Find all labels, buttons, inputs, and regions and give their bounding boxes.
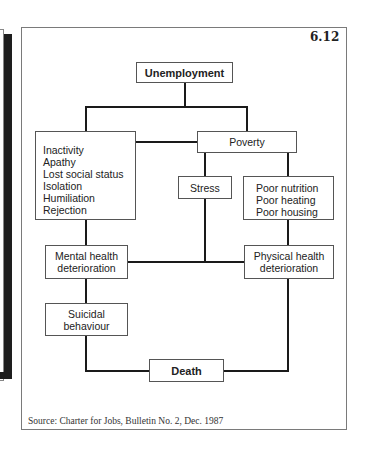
connector-mental-suicidal <box>85 279 87 303</box>
connector-to-poverty <box>246 106 248 131</box>
connector-social-mental <box>85 220 87 245</box>
connector-top-bar <box>85 106 248 108</box>
connector-social-poverty <box>136 141 197 143</box>
connector-suicidal-death <box>85 370 149 372</box>
connector-material-physical <box>287 220 289 245</box>
node-suicidal-line2: behaviour <box>63 320 109 332</box>
connector-physical-down <box>287 279 289 372</box>
connector-suicidal-down <box>85 336 87 372</box>
node-physical-health-line1: Physical health <box>254 250 325 262</box>
connector-poverty-stress <box>204 153 206 176</box>
connector-stress-down <box>204 199 206 262</box>
connector-poverty-material <box>287 153 289 176</box>
social-effect-item: Rejection <box>43 204 135 216</box>
node-death-label: Death <box>171 365 202 377</box>
social-effect-item: Humiliation <box>43 192 135 204</box>
node-mental-health-line2: deterioration <box>57 262 115 274</box>
node-unemployment-label: Unemployment <box>145 67 224 79</box>
material-effect-item: Poor heating <box>256 194 333 206</box>
node-poverty: Poverty <box>197 131 297 153</box>
node-social-effects: Inactivity Apathy Lost social status Iso… <box>35 131 136 220</box>
social-effect-item: Apathy <box>43 156 135 168</box>
connector-physical-death <box>224 370 289 372</box>
node-mental-health: Mental health deterioration <box>45 245 128 279</box>
node-death: Death <box>149 359 224 382</box>
node-physical-health: Physical health deterioration <box>244 245 334 279</box>
node-poverty-label: Poverty <box>229 136 265 148</box>
material-effect-item: Poor housing <box>256 206 333 218</box>
social-effect-item: Lost social status <box>43 168 135 180</box>
node-stress-label: Stress <box>190 182 220 194</box>
material-effect-item: Poor nutrition <box>256 182 333 194</box>
social-effect-item: Isolation <box>43 180 135 192</box>
node-physical-health-line2: deterioration <box>260 262 318 274</box>
node-suicidal: Suicidal behaviour <box>45 303 128 336</box>
node-material-effects: Poor nutrition Poor heating Poor housing <box>243 176 334 220</box>
connector-unemployment-stem <box>184 82 186 107</box>
connector-to-social <box>85 106 87 131</box>
figure-source: Source: Charter for Jobs, Bulletin No. 2… <box>28 416 223 426</box>
side-bar <box>4 34 12 379</box>
node-stress: Stress <box>178 176 232 199</box>
node-suicidal-line1: Suicidal <box>68 308 105 320</box>
node-mental-health-line1: Mental health <box>55 250 118 262</box>
side-bar-foot <box>0 372 12 379</box>
social-effect-item: Inactivity <box>43 144 135 156</box>
connector-mental-physical <box>128 261 244 263</box>
node-unemployment: Unemployment <box>136 62 233 83</box>
figure-number: 6.12 <box>310 30 339 44</box>
